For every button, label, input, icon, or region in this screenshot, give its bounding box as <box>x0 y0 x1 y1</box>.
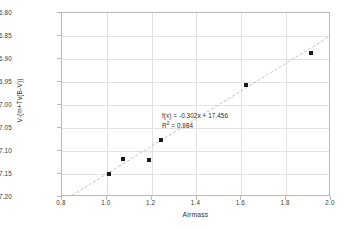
data-point-marker <box>147 158 151 162</box>
r-squared-line: R2 = 0.984 <box>162 120 228 130</box>
gridline-vertical <box>241 13 242 195</box>
data-point-marker <box>309 51 313 55</box>
y-tick-mark <box>57 12 61 13</box>
x-tick-mark <box>285 196 286 200</box>
y-tick-mark <box>57 127 61 128</box>
gridline-vertical <box>286 13 287 195</box>
y-tick-label: 17.20 <box>0 193 12 200</box>
y-tick-label: 17.00 <box>0 101 12 108</box>
x-tick-mark <box>240 196 241 200</box>
scatter-chart: f(x) = -0.302x + 17.456 R2 = 0.984 16.80… <box>0 0 345 230</box>
y-tick-mark <box>57 104 61 105</box>
y-tick-mark <box>57 58 61 59</box>
x-tick-mark <box>330 196 331 200</box>
y-tick-label: 17.05 <box>0 124 12 131</box>
gridline-vertical <box>107 13 108 195</box>
x-tick-label: 1.8 <box>270 199 300 206</box>
y-tick-label: 16.85 <box>0 32 12 39</box>
data-point-marker <box>159 138 163 142</box>
x-tick-mark <box>196 196 197 200</box>
x-tick-label: 1.2 <box>136 199 166 206</box>
y-tick-label: 16.90 <box>0 55 12 62</box>
x-tick-mark <box>151 196 152 200</box>
y-tick-mark <box>57 173 61 174</box>
regression-annotation: f(x) = -0.302x + 17.456 R2 = 0.984 <box>162 112 228 130</box>
y-tick-mark <box>57 35 61 36</box>
x-tick-label: 1.4 <box>181 199 211 206</box>
gridline-vertical <box>152 13 153 195</box>
x-tick-mark <box>61 196 62 200</box>
x-tick-mark <box>106 196 107 200</box>
y-tick-label: 16.80 <box>0 9 12 16</box>
data-point-marker <box>107 172 111 176</box>
r-squared-value: = 0.984 <box>169 122 193 129</box>
gridline-vertical <box>196 13 197 195</box>
y-tick-label: 17.10 <box>0 147 12 154</box>
y-axis-title: V-(m+Tv(B-V)) <box>16 26 23 176</box>
x-axis-title: Airmass <box>61 211 330 218</box>
y-tick-label: 17.15 <box>0 170 12 177</box>
plot-area: f(x) = -0.302x + 17.456 R2 = 0.984 <box>61 12 330 196</box>
y-tick-label: 16.95 <box>0 78 12 85</box>
x-tick-label: 1.6 <box>225 199 255 206</box>
data-point-marker <box>121 157 125 161</box>
x-tick-label: 2.0 <box>315 199 345 206</box>
regression-equation: f(x) = -0.302x + 17.456 <box>162 112 228 120</box>
y-tick-mark <box>57 81 61 82</box>
x-tick-label: 1.0 <box>91 199 121 206</box>
data-point-marker <box>244 83 248 87</box>
y-tick-mark <box>57 150 61 151</box>
x-tick-label: 0.8 <box>46 199 76 206</box>
